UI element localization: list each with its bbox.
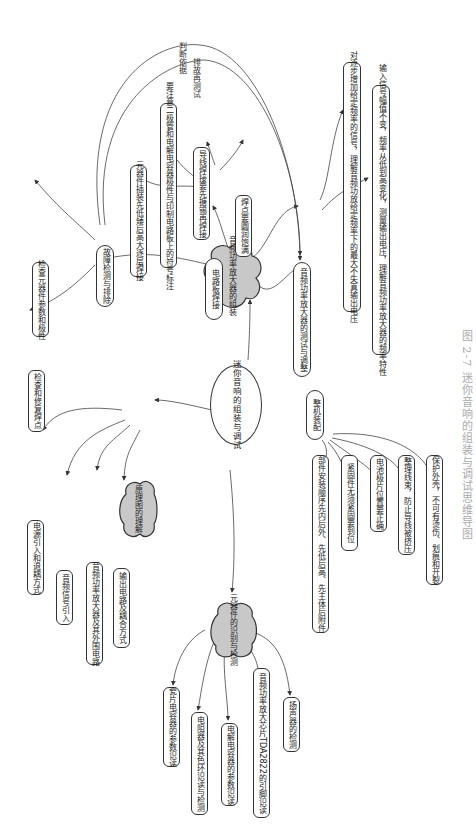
node-understanding-child-1: 电源引入和退耦方式 — [27, 520, 44, 595]
node-soldering-child-2: 要注意二极管和电解电容器极性与印制电路板上的符号标注 — [160, 103, 177, 268]
node-components-child-4: 音频功率放大芯片TDA2822的引脚识读 — [253, 668, 270, 818]
node-soldering-child-1: 元器件插装先低矮后高大逐层焊接 — [130, 165, 147, 277]
center-label: 迷你音响的组装与调试 — [230, 360, 242, 450]
node-testing-child-2: 输入信号幅值不变，频率从低到高变化，测量输出电压，理解音频功率放大器的频率特性 — [372, 85, 390, 355]
node-soldering-child-3: 导线焊接要先搪锡再焊接 — [193, 147, 210, 240]
node-troubleshooting-child-2: 检查和修复焊点 — [28, 370, 45, 432]
node-understanding-child-3: 音频功率放大器及其外围电路 — [86, 562, 103, 665]
node-troubleshooting-child-1: 检查元器件参数和极性 — [32, 262, 49, 337]
node-components-child-2: 电阻器及其色环识读与检测 — [191, 712, 208, 815]
cloud-label: 元器件的识别与检测 — [208, 600, 258, 660]
node-final-assembly-child-5: 保护外壳，不可有烫伤、划痕和开裂 — [426, 455, 443, 585]
cloud-node-components: 元器件的识别与检测 — [208, 600, 258, 660]
node-troubleshooting: 故障检测与排除 — [96, 245, 114, 307]
node-understanding-child-2: 音频信号引入 — [56, 570, 73, 625]
node-components-child-1: 瓷片电容器的参数识读 — [163, 687, 180, 767]
center-node: 迷你音响的组装与调试 — [210, 365, 262, 445]
node-final-assembly: 整机装配 — [306, 390, 324, 440]
node-components-child-5: 扬声器的检测 — [283, 697, 300, 752]
node-testing: 音频功率放大器的测试与调整 — [293, 262, 311, 377]
node-soldering: 电路板焊接 — [205, 258, 223, 320]
figure-caption: 图 2-7 迷你音响的组装与调试思维导图 — [458, 330, 474, 540]
cloud-node-understanding: 原理图的理解 — [118, 478, 158, 540]
node-components-child-3: 电解电容器的参数识读 — [221, 723, 238, 806]
cloud-label: 原理图的理解 — [118, 478, 158, 540]
node-final-assembly-child-3: 电池极片位置要正确 — [370, 455, 387, 532]
node-understanding-child-4: 输出电路及耦合方式 — [113, 568, 130, 648]
node-final-assembly-child-4: 整理线束，防止导线被挤压 — [398, 455, 415, 555]
node-testing-child-1: 对逐步增加给定频率的信号，理解音频功放给定频率下的最大不失真输出电压 — [343, 62, 361, 312]
node-final-assembly-child-2: 紧固件无须紧固要到位 — [341, 455, 358, 551]
node-final-assembly-child-1: 部件安装顺序先内后外、先低后高、先主体后附件 — [312, 455, 329, 633]
edge-label-retest: 排故再测试 — [190, 58, 201, 98]
node-soldering-child-4: 焊点要圆润饱满 — [235, 195, 252, 257]
edge-label-judge: 判断依据 — [176, 42, 187, 74]
